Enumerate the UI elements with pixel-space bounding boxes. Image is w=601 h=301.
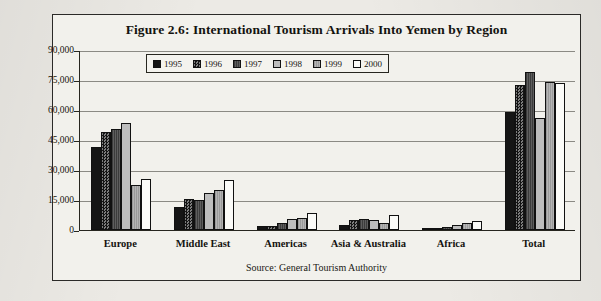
bar-group [493, 51, 576, 230]
x-axis-tick-label: Americas [264, 238, 307, 249]
bar [422, 228, 432, 230]
y-axis-tick-label: 60,000 [0, 105, 74, 115]
bar-group [411, 51, 494, 230]
bar [297, 218, 307, 230]
bar [555, 83, 565, 230]
legend-swatch [273, 60, 281, 68]
y-axis-tick-mark [74, 231, 79, 232]
legend-item: 1997 [233, 59, 262, 69]
legend-label: 1998 [284, 59, 302, 69]
legend-swatch [353, 60, 361, 68]
bar [224, 180, 234, 230]
chart-legend: 199519961997199819992000 [146, 54, 389, 73]
bar [369, 220, 379, 230]
x-axis-labels: EuropeMiddle EastAmericasAsia & Australi… [79, 238, 575, 254]
bar-group [245, 51, 328, 230]
bar-group [80, 51, 163, 230]
bar [535, 118, 545, 230]
bar [442, 227, 452, 230]
x-axis-tick-label: Europe [104, 238, 137, 249]
legend-swatch [153, 60, 161, 68]
y-axis-tick-label: 45,000 [0, 135, 74, 145]
bar [174, 207, 184, 230]
bar [91, 147, 101, 230]
bar [505, 112, 515, 230]
bar [121, 123, 131, 230]
bar [267, 226, 277, 230]
bar [141, 179, 151, 230]
y-axis-tick-label: 75,000 [0, 75, 74, 85]
bar [131, 185, 141, 230]
legend-label: 1997 [244, 59, 262, 69]
bar [307, 213, 317, 230]
bar [339, 225, 349, 230]
bar [462, 223, 472, 230]
bar [184, 199, 194, 230]
legend-label: 1995 [164, 59, 182, 69]
y-axis-tick-label: 90,000 [0, 45, 74, 55]
bar [525, 72, 535, 230]
bar [472, 221, 482, 230]
bar [194, 200, 204, 230]
bar [515, 85, 525, 230]
bar [389, 215, 399, 230]
bar [545, 82, 555, 230]
legend-item: 2000 [353, 59, 382, 69]
source-note: Source: General Tourism Authority [52, 262, 581, 273]
legend-item: 1996 [193, 59, 222, 69]
bar [101, 132, 111, 230]
legend-label: 1996 [204, 59, 222, 69]
legend-label: 1999 [324, 59, 342, 69]
bar [257, 226, 267, 230]
bar [287, 219, 297, 230]
bar-group [328, 51, 411, 230]
legend-swatch [233, 60, 241, 68]
y-axis-tick-label: 0 [0, 225, 74, 235]
bar-group [163, 51, 246, 230]
bars-layer [80, 51, 575, 230]
bar [214, 190, 224, 230]
bar [452, 225, 462, 230]
legend-swatch [193, 60, 201, 68]
bar [349, 220, 359, 230]
legend-item: 1998 [273, 59, 302, 69]
x-axis-tick-label: Middle East [176, 238, 231, 249]
legend-swatch [313, 60, 321, 68]
legend-item: 1999 [313, 59, 342, 69]
x-axis-tick-label: Africa [437, 238, 466, 249]
bar [204, 193, 214, 230]
bar [379, 223, 389, 230]
bar [277, 223, 287, 230]
x-axis-tick-label: Asia & Australia [331, 238, 406, 249]
legend-label: 2000 [364, 59, 382, 69]
y-axis-tick-label: 15,000 [0, 195, 74, 205]
legend-item: 1995 [153, 59, 182, 69]
y-axis-tick-label: 30,000 [0, 165, 74, 175]
bar [111, 129, 121, 230]
bar [359, 219, 369, 230]
plot-area [79, 51, 575, 231]
x-axis-tick-label: Total [522, 238, 545, 249]
bar [432, 228, 442, 230]
